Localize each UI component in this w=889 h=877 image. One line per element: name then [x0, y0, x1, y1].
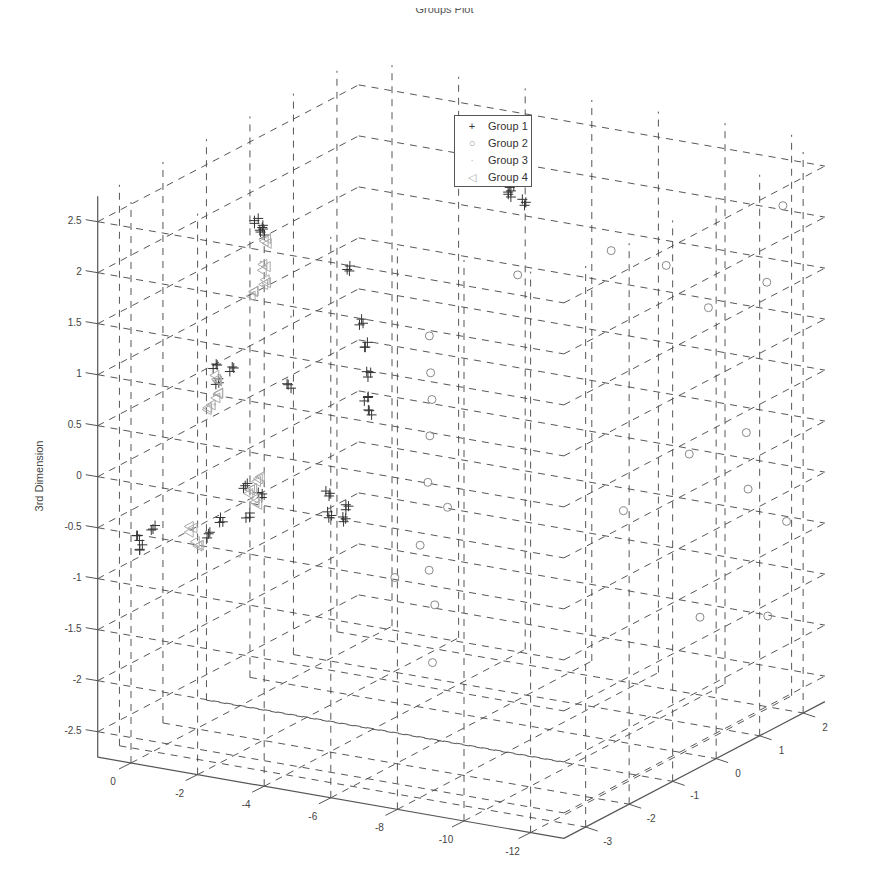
plot-area: 0-2-4-6-8-10-12-3-2-10122.521.510.50-0.5… [0, 0, 889, 877]
triangle-left-marker-icon: ◁ [465, 170, 479, 184]
svg-text:0: 0 [76, 470, 82, 481]
z-axis-label: 3rd Dimension [33, 431, 45, 521]
legend[interactable]: + Group 1 ○ Group 2 · Group 3 ◁ Group 4 [454, 115, 532, 187]
svg-text:0.5: 0.5 [68, 419, 82, 430]
svg-text:-4: -4 [242, 799, 251, 810]
svg-text:-2: -2 [73, 674, 82, 685]
svg-text:-3: -3 [603, 836, 612, 847]
svg-text:-10: -10 [439, 834, 454, 845]
svg-text:-8: -8 [375, 822, 384, 833]
dot-marker-icon: · [465, 153, 479, 167]
svg-text:0: 0 [735, 768, 741, 779]
circle-marker-icon: ○ [465, 136, 479, 150]
svg-text:1: 1 [76, 368, 82, 379]
svg-text:-6: -6 [308, 811, 317, 822]
svg-text:1: 1 [779, 745, 785, 756]
svg-text:-1: -1 [73, 572, 82, 583]
svg-text:-1: -1 [690, 790, 699, 801]
svg-text:-0.5: -0.5 [64, 521, 82, 532]
legend-item-group-4: ◁ Group 4 [455, 170, 533, 186]
legend-label: Group 3 [488, 154, 528, 166]
svg-text:2: 2 [76, 266, 82, 277]
svg-text:2: 2 [822, 722, 828, 733]
svg-text:-1.5: -1.5 [64, 623, 82, 634]
data-points [132, 152, 791, 666]
legend-item-group-1: + Group 1 [455, 119, 533, 135]
svg-text:2.5: 2.5 [68, 215, 82, 226]
svg-text:1.5: 1.5 [68, 317, 82, 328]
plus-marker-icon: + [465, 119, 479, 133]
svg-text:-2: -2 [175, 788, 184, 799]
legend-item-group-2: ○ Group 2 [455, 136, 533, 152]
axes [86, 196, 825, 838]
legend-item-group-3: · Group 3 [455, 153, 533, 169]
svg-text:-12: -12 [505, 846, 520, 857]
svg-text:-2: -2 [647, 813, 656, 824]
legend-label: Group 2 [488, 137, 528, 149]
legend-label: Group 4 [488, 171, 528, 183]
legend-label: Group 1 [488, 120, 528, 132]
svg-text:0: 0 [110, 776, 116, 787]
svg-text:-2.5: -2.5 [64, 725, 82, 736]
